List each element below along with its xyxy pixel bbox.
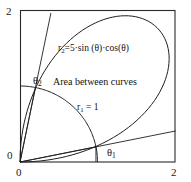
x-axis-min-tick-label: 0 — [16, 167, 22, 178]
theta1-radial-line-inner — [20, 147, 96, 162]
x-axis-max-tick-label: 2 — [171, 167, 177, 178]
polar-plot-figure: 2 0 0 2 r2=5·sin (θ)·cos(θ) r1 = 1 Area … — [0, 0, 191, 182]
theta2-subscript: 2 — [38, 79, 42, 88]
curve-r1-label: r1 = 1 — [77, 103, 98, 113]
curve-r2-label: r2=5·sin (θ)·cos(θ) — [58, 44, 129, 54]
curve-r1-expression: = 1 — [84, 102, 99, 112]
y-axis-min-tick-label: 0 — [7, 150, 13, 161]
theta2-label: θ2 — [33, 76, 42, 87]
theta1-label: θ1 — [107, 148, 116, 159]
plot-canvas — [0, 0, 191, 182]
y-axis-max-tick-label: 2 — [6, 6, 12, 17]
area-annotation-label: Area between curves — [53, 77, 137, 87]
theta2-radial-line-inner — [20, 88, 35, 162]
theta1-subscript: 1 — [112, 151, 116, 160]
curve-r2-expression: =5·sin (θ)·cos(θ) — [65, 43, 129, 53]
